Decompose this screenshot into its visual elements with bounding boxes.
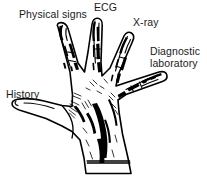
- label-diagnostic-laboratory: Diagnostic laboratory: [150, 46, 200, 69]
- diagnostic-hand-figure: Physical signs ECG X-ray Diagnostic labo…: [0, 0, 207, 176]
- label-xray: X-ray: [133, 17, 159, 29]
- wrist-shading: [87, 160, 131, 164]
- label-ecg: ECG: [94, 2, 117, 14]
- label-history: History: [6, 89, 39, 101]
- label-physical-signs: Physical signs: [19, 9, 87, 21]
